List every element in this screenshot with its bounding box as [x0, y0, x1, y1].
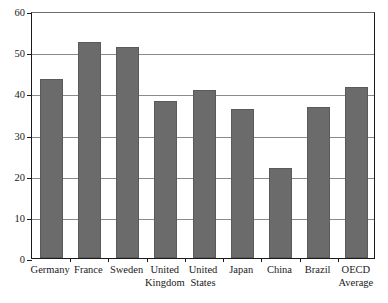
x-axis-tick — [261, 258, 262, 262]
plot-area: 0102030405060 — [31, 12, 375, 259]
x-axis-labels: GermanyFranceSwedenUnitedKingdomUnitedSt… — [31, 264, 375, 302]
x-axis-category-label: UnitedKingdom — [145, 264, 185, 289]
bar — [154, 101, 177, 258]
y-axis-tick — [27, 219, 32, 220]
y-axis-tick — [27, 54, 32, 55]
bar — [78, 42, 101, 258]
x-axis-tick — [338, 258, 339, 262]
x-axis-category-label: Germany — [31, 264, 70, 277]
y-axis-tick — [27, 137, 32, 138]
x-axis-tick — [300, 258, 301, 262]
y-axis-tick-label: 50 — [15, 49, 26, 60]
y-axis-tick — [27, 178, 32, 179]
x-axis-tick — [223, 258, 224, 262]
bar — [345, 87, 368, 258]
bar — [307, 107, 330, 258]
y-axis-tick-label: 0 — [20, 255, 25, 266]
bar — [116, 47, 139, 258]
y-axis-tick-label: 60 — [15, 8, 26, 19]
x-axis-category-label: Brazil — [305, 264, 331, 277]
bar — [193, 90, 216, 258]
x-axis-category-label: Japan — [229, 264, 253, 277]
y-axis-tick-label: 10 — [15, 214, 26, 225]
bar — [40, 79, 63, 258]
y-axis-tick-label: 40 — [15, 90, 26, 101]
bar — [231, 109, 254, 258]
bar-chart: 0102030405060 GermanyFranceSwedenUnitedK… — [0, 0, 388, 303]
x-axis-category-label: France — [74, 264, 103, 277]
y-axis-tick-label: 30 — [15, 131, 26, 142]
x-axis-tick — [185, 258, 186, 262]
x-axis-tick — [70, 258, 71, 262]
y-axis-tick — [27, 95, 32, 96]
x-axis-category-label: China — [267, 264, 292, 277]
x-axis-tick — [147, 258, 148, 262]
y-axis-tick — [27, 260, 32, 261]
y-axis-tick-label: 20 — [15, 172, 26, 183]
x-axis-category-label: Sweden — [110, 264, 143, 277]
x-axis-category-label: OECDAverage — [338, 264, 373, 289]
bar — [269, 168, 292, 258]
x-axis-tick — [108, 258, 109, 262]
y-axis-tick — [27, 13, 32, 14]
x-axis-category-label: UnitedStates — [189, 264, 218, 289]
